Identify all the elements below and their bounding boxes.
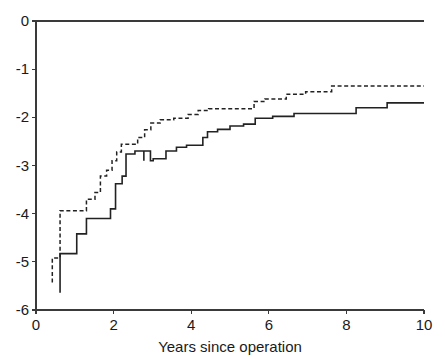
x-tick-label-4: 8 — [342, 316, 350, 333]
y-tick-label-4: -4 — [16, 205, 29, 222]
y-tick-label-0: 0 — [21, 12, 29, 29]
chart-figure: 0-1-2-3-4-5-6 0246810 Years since operat… — [0, 0, 445, 359]
y-tick-label-1: -1 — [16, 60, 29, 77]
data-series — [52, 86, 424, 293]
y-tick-label-2: -2 — [16, 108, 29, 125]
axes — [36, 21, 424, 310]
y-axis-tick-labels: 0-1-2-3-4-5-6 — [16, 12, 29, 318]
x-tick-label-0: 0 — [32, 316, 40, 333]
y-tick-label-3: -3 — [16, 157, 29, 174]
series-solid-curve — [60, 103, 424, 293]
series-dashed-curve — [52, 86, 424, 283]
y-tick-label-6: -6 — [16, 301, 29, 318]
y-tick-label-5: -5 — [16, 253, 29, 270]
x-axis-title: Years since operation — [158, 338, 302, 355]
x-tick-label-3: 6 — [265, 316, 273, 333]
x-tick-label-2: 4 — [187, 316, 195, 333]
x-tick-label-1: 2 — [109, 316, 117, 333]
step-chart: 0-1-2-3-4-5-6 0246810 Years since operat… — [0, 0, 445, 359]
x-axis-tick-labels: 0246810 — [32, 316, 433, 333]
tick-marks — [32, 21, 424, 314]
x-tick-label-5: 10 — [416, 316, 433, 333]
